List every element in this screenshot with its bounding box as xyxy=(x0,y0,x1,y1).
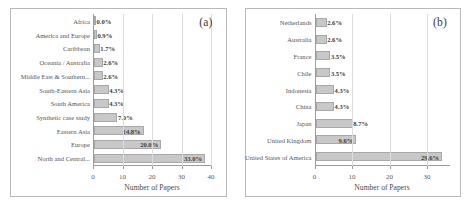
category-label: Africa xyxy=(73,17,90,24)
bar-value-label: 0.9% xyxy=(97,31,112,38)
category-label: Synthetic case study xyxy=(36,114,90,121)
gridline xyxy=(123,14,124,166)
category-label: Caribbean xyxy=(63,45,90,52)
x-tick-mark xyxy=(93,166,94,169)
panel-b-bar-rows: Netherlands2.6%Australia2.6%France3.5%Ch… xyxy=(316,14,450,165)
bar: 4.3% xyxy=(94,85,109,94)
bar: 3.5% xyxy=(316,51,331,60)
bar: 9.6% xyxy=(316,135,357,144)
bar-value-label: 7.0% xyxy=(118,114,133,121)
panel-b-x-axis xyxy=(315,165,450,166)
bar: 2.6% xyxy=(316,18,327,27)
bar-value-label: 3.5% xyxy=(331,69,346,76)
bar-value-label: 2.6% xyxy=(327,19,342,26)
panel-a-x-axis-title: Number of Papers xyxy=(124,183,179,192)
bar-value-label: 29.6% xyxy=(421,153,439,160)
gridline xyxy=(427,14,428,166)
category-label: Europe xyxy=(71,141,90,148)
bar: 8.7% xyxy=(316,119,353,128)
x-tick-label: 0 xyxy=(313,173,317,181)
bar: 4.3% xyxy=(316,85,335,94)
bar-value-label: 33.0% xyxy=(184,155,202,162)
category-label: Oceania / Australia xyxy=(39,59,90,66)
category-label: United Kingdom xyxy=(267,136,312,143)
bar-row: Netherlands2.6% xyxy=(316,14,450,31)
bar: 2.6% xyxy=(94,71,103,80)
category-label: Japan xyxy=(296,120,311,127)
bar-row: Indonesia4.3% xyxy=(316,81,450,98)
x-tick-mark xyxy=(352,166,353,169)
panel-a-plot-area: Africa0.0%America and Europe0.9%Caribbea… xyxy=(93,14,211,166)
x-tick-mark xyxy=(152,166,153,169)
gridline xyxy=(182,14,183,166)
x-tick-label: 10 xyxy=(119,173,126,181)
bar-value-label: 2.6% xyxy=(103,59,118,66)
bar-value-label: 8.7% xyxy=(353,120,368,127)
x-tick-mark xyxy=(427,166,428,169)
bar-row: China4.3% xyxy=(316,98,450,115)
category-label: United States of America xyxy=(245,153,311,160)
x-tick-mark xyxy=(315,166,316,169)
panel-b-x-axis-title: Number of Papers xyxy=(354,183,409,192)
category-label: Eastern Asia xyxy=(57,127,90,134)
bar-value-label: 1.7% xyxy=(100,45,115,52)
gridline xyxy=(152,14,153,166)
bar: 33.0% xyxy=(94,154,205,163)
bar: 0.9% xyxy=(94,30,97,39)
panel-a: (a) Africa0.0%America and Europe0.9%Cari… xyxy=(0,0,235,205)
category-label: America and Europe xyxy=(35,31,90,38)
x-tick-label: 20 xyxy=(386,173,393,181)
category-label: Australia xyxy=(287,36,311,43)
x-tick-label: 30 xyxy=(424,173,431,181)
bar-value-label: 20.0% xyxy=(140,141,158,148)
category-label: Indonesia xyxy=(286,86,312,93)
bar-value-label: 4.3% xyxy=(335,103,350,110)
gridline xyxy=(211,14,212,166)
x-tick-mark xyxy=(390,166,391,169)
bar: 3.5% xyxy=(316,68,331,77)
bar-value-label: 0.0% xyxy=(97,17,112,24)
bar-row: United Kingdom9.6% xyxy=(316,131,450,148)
category-label: Middle East & Southern... xyxy=(21,72,90,79)
panel-b: (b) Netherlands2.6%Australia2.6%France3.… xyxy=(235,0,469,205)
x-tick-mark xyxy=(123,166,124,169)
bar: 4.3% xyxy=(94,99,109,108)
category-label: France xyxy=(294,52,312,59)
bar-value-label: 2.6% xyxy=(327,36,342,43)
bar-value-label: 14.8% xyxy=(123,127,141,134)
category-label: South-Eastern Asia xyxy=(39,86,90,93)
category-label: Netherlands xyxy=(280,19,312,26)
x-tick-label: 10 xyxy=(349,173,356,181)
figure-two-panel-bar-charts: (a) Africa0.0%America and Europe0.9%Cari… xyxy=(0,0,469,205)
bar-row: Chile3.5% xyxy=(316,64,450,81)
bar-row: France3.5% xyxy=(316,48,450,65)
category-label: North and Central... xyxy=(37,155,90,162)
bar: 4.3% xyxy=(316,102,335,111)
x-tick-label: 30 xyxy=(178,173,185,181)
bar-row: Australia2.6% xyxy=(316,31,450,48)
x-tick-label: 20 xyxy=(149,173,156,181)
x-tick-mark xyxy=(211,166,212,169)
x-tick-label: 40 xyxy=(208,173,215,181)
category-label: South America xyxy=(51,100,90,107)
x-tick-mark xyxy=(182,166,183,169)
bar-value-label: 4.3% xyxy=(335,86,350,93)
bar-row: United States of America29.6% xyxy=(316,148,450,165)
bar: 7.0% xyxy=(94,113,117,122)
bar: 2.6% xyxy=(316,35,327,44)
bar: 1.7% xyxy=(94,44,100,53)
bar-row: Japan8.7% xyxy=(316,115,450,132)
bar: 2.6% xyxy=(94,58,103,67)
panel-a-tag: (a) xyxy=(199,16,212,28)
x-tick-label: 0 xyxy=(91,173,95,181)
bar: 14.8% xyxy=(94,126,144,135)
bar-value-label: 2.6% xyxy=(103,72,118,79)
panel-b-tag: (b) xyxy=(433,16,447,28)
gridline xyxy=(352,14,353,166)
category-label: Chile xyxy=(297,69,311,76)
bar: 0.0% xyxy=(94,16,96,25)
bar-value-label: 3.5% xyxy=(331,52,346,59)
panel-b-plot-area: Netherlands2.6%Australia2.6%France3.5%Ch… xyxy=(315,14,450,166)
category-label: China xyxy=(296,103,312,110)
gridline xyxy=(390,14,391,166)
